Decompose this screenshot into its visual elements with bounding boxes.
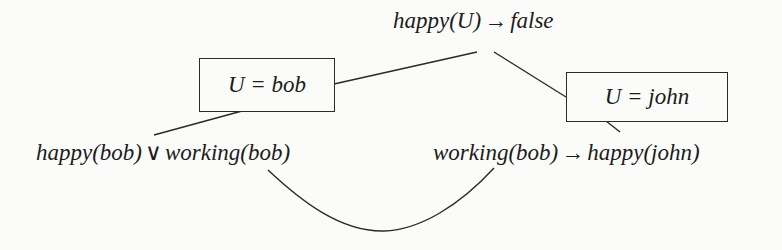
edge-root-to-bob	[334, 52, 477, 84]
implies-arrow-icon: →	[558, 140, 587, 165]
edge-bob-to-leaf-left	[154, 111, 242, 135]
leaf-left-premise: happy(bob)	[36, 140, 142, 165]
root-clause-conclusion: false	[510, 8, 553, 33]
edges-layer	[0, 0, 782, 250]
or-symbol-icon: ∨	[142, 140, 165, 165]
substitution-box-john: U = john	[566, 72, 728, 122]
root-clause: happy(U)→false	[393, 9, 554, 32]
leaf-clause-left: happy(bob)∨working(bob)	[36, 141, 290, 164]
implies-arrow-icon: →	[481, 8, 510, 33]
edge-john-to-leaf-right	[606, 121, 620, 132]
leaf-right-conclusion: happy(john)	[587, 140, 699, 165]
root-clause-premise: happy(U)	[393, 8, 481, 33]
edge-resolution-curve	[268, 168, 494, 231]
substitution-box-bob: U = bob	[199, 58, 335, 112]
substitution-label-bob: U = bob	[228, 72, 306, 98]
leaf-clause-right: working(bob)→happy(john)	[433, 141, 700, 164]
edge-root-to-john	[494, 52, 566, 97]
leaf-right-premise: working(bob)	[433, 140, 558, 165]
leaf-left-conclusion: working(bob)	[165, 140, 290, 165]
substitution-label-john: U = john	[605, 84, 690, 110]
